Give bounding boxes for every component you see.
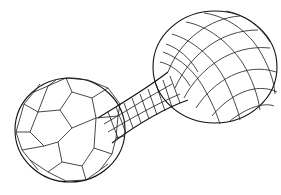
connecting-neck: [98, 72, 188, 143]
left-sphere: [15, 78, 125, 182]
right-sphere: [153, 11, 277, 124]
dumbbell-wireframe: [0, 0, 281, 195]
